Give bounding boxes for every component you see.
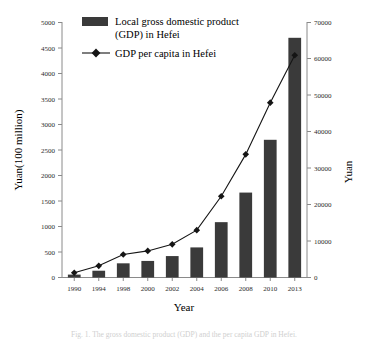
left-tick-label-8: 4000	[41, 70, 56, 78]
right-axis-title: Yuan	[342, 160, 354, 183]
chart-svg: Local gross domestic product (GDP) in He…	[0, 0, 369, 340]
left-tick-label-5: 2500	[41, 147, 56, 155]
right-tick-label-1: 10000	[314, 238, 332, 246]
legend-item-0-label-line2: (GDP) in Hefei	[115, 29, 180, 41]
bar-2004	[190, 247, 203, 277]
x-tick-label-1998: 1998	[116, 285, 131, 293]
right-tick-label-4: 40000	[314, 128, 332, 136]
right-tick-label-6: 60000	[314, 55, 332, 63]
bar-2013	[288, 38, 301, 278]
x-tick-label-2004: 2004	[190, 285, 205, 293]
left-axis-title: Yuan(100 million)	[12, 109, 25, 190]
legend-item-1-label-line1: GDP per capita in Hefei	[115, 48, 216, 59]
figure-container: Local gross domestic product (GDP) in He…	[0, 0, 369, 340]
x-tick-label-1990: 1990	[67, 285, 82, 293]
left-tick-label-3: 1500	[41, 198, 56, 206]
figure-caption: Fig. 1. The gross domestic product (GDP)…	[71, 330, 297, 339]
left-tick-label-0: 0	[52, 274, 56, 282]
left-tick-label-7: 3500	[41, 96, 56, 104]
legend-item-0-label-line1: Local gross domestic product	[115, 16, 239, 27]
x-tick-label-2008: 2008	[239, 285, 254, 293]
right-tick-label-3: 30000	[314, 165, 332, 173]
bar-1994	[92, 271, 105, 278]
left-tick-label-6: 3000	[41, 121, 56, 129]
right-tick-label-0: 0	[314, 274, 318, 282]
right-tick-label-7: 70000	[314, 19, 332, 27]
left-tick-label-4: 2000	[41, 172, 56, 180]
x-tick-label-2002: 2002	[165, 285, 180, 293]
bar-1998	[117, 263, 130, 277]
bar-2010	[264, 140, 277, 278]
x-tick-label-1994: 1994	[92, 285, 107, 293]
x-tick-label-2013: 2013	[288, 285, 303, 293]
bar-2000	[141, 261, 154, 278]
left-tick-label-1: 500	[45, 249, 56, 257]
left-tick-label-9: 4500	[41, 45, 56, 53]
x-tick-label-2000: 2000	[141, 285, 156, 293]
right-tick-label-2: 20000	[314, 201, 332, 209]
left-tick-label-2: 1000	[41, 223, 56, 231]
left-tick-label-10: 5000	[41, 19, 56, 27]
x-tick-label-2006: 2006	[214, 285, 229, 293]
legend-bar-swatch	[82, 17, 108, 26]
bar-2002	[166, 256, 179, 277]
bar-2006	[215, 222, 228, 277]
right-tick-label-5: 50000	[314, 92, 332, 100]
x-tick-label-2010: 2010	[263, 285, 278, 293]
x-axis-title: Year	[174, 301, 195, 313]
bar-2008	[239, 193, 252, 278]
